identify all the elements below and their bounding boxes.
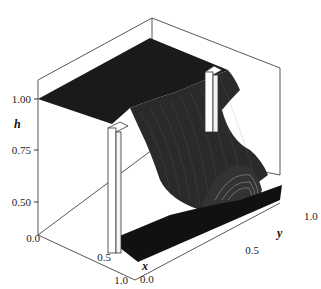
obstacle-front bbox=[108, 122, 128, 253]
y-tick-0.0: 0.0 bbox=[140, 273, 154, 285]
z-tick-0.75: 0.75 bbox=[12, 144, 32, 156]
y-tick-0.5: 0.5 bbox=[245, 244, 259, 256]
z-axis-label: h bbox=[14, 117, 21, 131]
x-axis-label: x bbox=[141, 259, 148, 273]
z-tick-0.50: 0.50 bbox=[12, 196, 32, 208]
z-axis: 1.00 0.75 0.50 h bbox=[12, 93, 38, 208]
y-tick-1.0: 1.0 bbox=[304, 210, 318, 222]
surface-plot: 1.00 0.75 0.50 h 0.0 0.5 1.0 x 0.0 0.5 1… bbox=[0, 0, 321, 289]
x-tick-1.0: 1.0 bbox=[114, 274, 128, 286]
y-axis-label: y bbox=[275, 226, 283, 240]
x-tick-0.5: 0.5 bbox=[97, 251, 111, 263]
z-tick-1.00: 1.00 bbox=[12, 93, 32, 105]
x-tick-0.0: 0.0 bbox=[26, 232, 40, 244]
